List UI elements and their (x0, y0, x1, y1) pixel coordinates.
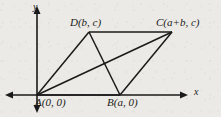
vertex-label-B: B(a, 0) (107, 97, 138, 108)
diagonals (37, 32, 172, 95)
vertex-label-C: C(a+b, c) (156, 17, 199, 28)
vertex-label-A: A(0, 0) (35, 97, 66, 108)
diagonal-BD (89, 32, 120, 95)
x-axis-right-arrow-icon (180, 92, 188, 99)
x-axis-left-arrow-icon (5, 92, 13, 99)
x-axis-label: x (194, 87, 198, 97)
side-BC (120, 32, 172, 95)
y-axis-label: y (33, 2, 37, 12)
side-DA (37, 32, 89, 95)
geometry-figure: D(b, c) C(a+b, c) A(0, 0) B(a, 0) y x (0, 0, 221, 117)
vertex-label-D: D(b, c) (70, 17, 101, 28)
